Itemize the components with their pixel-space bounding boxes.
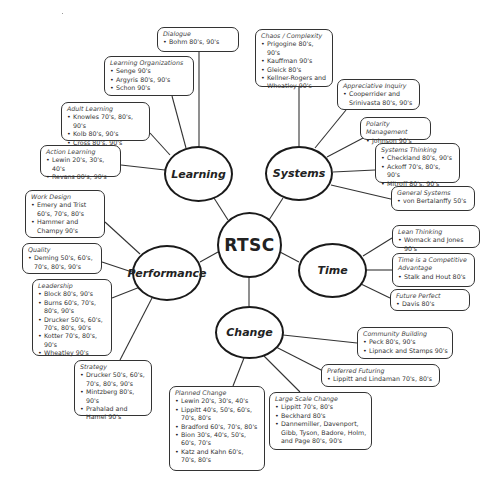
list-item: Revans 80's, 90's bbox=[46, 173, 116, 181]
theme-time[interactable]: Time bbox=[298, 243, 367, 298]
list-item: Argyris 80's, 90's bbox=[110, 76, 189, 84]
list-item: Bion 30's, 40's, 50's, 60's, 70's bbox=[175, 431, 260, 448]
box-large-scale-change[interactable]: Large Scale Change Lippitt 70's, 80's Be… bbox=[269, 392, 372, 450]
box-title: Quality bbox=[28, 246, 97, 254]
box-title: Strategy bbox=[80, 363, 147, 371]
list-item: Block 80's, 90's bbox=[38, 290, 107, 298]
box-leadership[interactable]: Leadership Block 80's, 90's Burns 60's, … bbox=[32, 279, 112, 356]
list-item: Prigogine 80's, 90's bbox=[261, 40, 328, 57]
list-item: Wheatley 90's bbox=[38, 349, 107, 357]
list-item: Checkland 80's, 90's bbox=[381, 154, 455, 162]
box-title: Large Scale Change bbox=[275, 395, 367, 403]
box-title: Community Building bbox=[363, 330, 448, 338]
list-item: Stalk and Hout 80's bbox=[398, 273, 470, 281]
theme-learning[interactable]: Learning bbox=[164, 146, 233, 202]
list-item: Burns 60's, 70's, 80's, 90's bbox=[38, 299, 107, 316]
box-title: Chaos / Complexity bbox=[261, 32, 328, 40]
list-item: Kauffman 90's bbox=[261, 57, 328, 65]
box-preferred-futuring[interactable]: Preferred Futuring Lippitt and Lindaman … bbox=[321, 364, 440, 387]
list-item: Lewin 20's, 30's, 40's bbox=[46, 156, 116, 173]
box-title: Future Perfect bbox=[396, 292, 465, 300]
box-appreciative-inquiry[interactable]: Appreciative Inquiry Cooperrider and Sri… bbox=[337, 79, 420, 110]
list-item: Bohm 80's, 90's bbox=[163, 38, 234, 46]
theme-label: Change bbox=[226, 326, 273, 339]
list-item: Peck 80's, 90's bbox=[363, 338, 448, 346]
list-item: Drucker 50's, 60's, 70's, 80's, 90's bbox=[80, 371, 147, 388]
box-title: Action Learning bbox=[46, 148, 116, 156]
box-strategy[interactable]: Strategy Drucker 50's, 60's, 70's, 80's,… bbox=[74, 360, 152, 416]
theme-label: Learning bbox=[171, 168, 226, 181]
list-item: Lewin 20's, 30's, 40's bbox=[175, 397, 260, 405]
list-item: Kellner-Rogers and Wheatley 90's bbox=[261, 74, 328, 91]
list-item: Dannemiller, Davenport, Gibb, Tyson, Bad… bbox=[275, 420, 367, 445]
box-systems-thinking[interactable]: Systems Thinking Checkland 80's, 90's Ac… bbox=[375, 143, 460, 183]
box-polarity-management[interactable]: Polarity Management Johnson 90's bbox=[360, 117, 431, 140]
box-title: Preferred Futuring bbox=[327, 367, 435, 375]
box-quality[interactable]: Quality Deming 50's, 60's, 70's, 80's, 9… bbox=[22, 243, 102, 274]
box-general-systems[interactable]: General Systems von Bertalanffy 50's bbox=[391, 186, 475, 211]
list-item: Prahalad and Hamel 90's bbox=[80, 405, 147, 422]
list-item: Deming 50's, 60's, 70's, 80's, 90's bbox=[28, 254, 97, 271]
box-title: Adult Learning bbox=[67, 105, 145, 113]
list-item: Drucker 50's, 60's, 70's, 80's, 90's bbox=[38, 316, 107, 333]
box-title: Leadership bbox=[38, 282, 107, 290]
box-work-design[interactable]: Work Design Emery and Trist 60's, 70's, … bbox=[25, 190, 105, 238]
box-dialogue[interactable]: Dialogue Bohm 80's, 90's bbox=[157, 27, 239, 52]
box-title: Appreciative Inquiry bbox=[343, 82, 415, 90]
box-learning-organizations[interactable]: Learning Organizations Senge 90's Argyri… bbox=[104, 56, 194, 96]
theme-change[interactable]: Change bbox=[215, 306, 284, 359]
theme-label: Systems bbox=[273, 167, 325, 180]
box-title: Polarity Management bbox=[366, 120, 426, 137]
box-title: Learning Organizations bbox=[110, 59, 189, 67]
box-community-building[interactable]: Community Building Peck 80's, 90's Lipna… bbox=[357, 327, 453, 359]
list-item: Schon 90's bbox=[110, 84, 189, 92]
box-title: Time is a Competitive Advantage bbox=[398, 256, 470, 273]
stray-mark bbox=[62, 13, 63, 14]
box-title: Systems Thinking bbox=[381, 146, 455, 154]
box-title: Lean Thinking bbox=[398, 228, 475, 236]
list-item: Lipnack and Stamps 90's bbox=[363, 347, 448, 355]
list-item: Katz and Kahn 60's, 70's, 80's bbox=[175, 448, 260, 465]
list-item: Senge 90's bbox=[110, 67, 189, 75]
box-lean-thinking[interactable]: Lean Thinking Womack and Jones 90's bbox=[392, 225, 480, 248]
list-item: Gleick 80's bbox=[261, 66, 328, 74]
theme-systems[interactable]: Systems bbox=[265, 146, 333, 201]
box-action-learning[interactable]: Action Learning Lewin 20's, 30's, 40's R… bbox=[40, 145, 121, 177]
theme-label: Performance bbox=[127, 267, 206, 280]
list-item: Lippitt and Lindaman 70's, 80's bbox=[327, 375, 435, 383]
list-item: Davis 80's bbox=[396, 300, 465, 308]
box-title: Work Design bbox=[31, 193, 100, 201]
box-adult-learning[interactable]: Adult Learning Knowles 70's, 80's, 90's … bbox=[61, 102, 150, 141]
theme-performance[interactable]: Performance bbox=[132, 245, 202, 301]
list-item: Hammer and Champy 90's bbox=[31, 218, 100, 235]
list-item: Kotter 70's, 80's, 90's bbox=[38, 332, 107, 349]
box-title: Planned Change bbox=[175, 389, 260, 397]
box-future-perfect[interactable]: Future Perfect Davis 80's bbox=[390, 289, 470, 311]
hub-rtsc[interactable]: RTSC bbox=[217, 212, 282, 278]
list-item: Mintzberg 80's, 90's bbox=[80, 388, 147, 405]
box-competitive-advantage[interactable]: Time is a Competitive Advantage Stalk an… bbox=[392, 253, 475, 287]
list-item: Bradford 60's, 70's, 80's bbox=[175, 423, 260, 431]
list-item: Womack and Jones 90's bbox=[398, 236, 475, 253]
list-item: Beckhard 80's bbox=[275, 412, 367, 420]
theme-label: Time bbox=[317, 264, 347, 277]
list-item: Knowles 70's, 80's, 90's bbox=[67, 113, 145, 130]
list-item: Kolb 80's, 90's bbox=[67, 130, 145, 138]
hub-label: RTSC bbox=[224, 235, 275, 255]
box-planned-change[interactable]: Planned Change Lewin 20's, 30's, 40's Li… bbox=[169, 386, 265, 471]
box-title: General Systems bbox=[397, 189, 470, 197]
list-item: Lippitt 70's, 80's bbox=[275, 403, 367, 411]
list-item: Emery and Trist 60's, 70's, 80's bbox=[31, 201, 100, 218]
box-chaos-complexity[interactable]: Chaos / Complexity Prigogine 80's, 90's … bbox=[255, 29, 333, 87]
box-title: Dialogue bbox=[163, 30, 234, 38]
list-item: Cooperrider and Srinivasta 80's, 90's bbox=[343, 90, 415, 107]
list-item: von Bertalanffy 50's bbox=[397, 197, 470, 205]
list-item: Ackoff 70's, 80's, 90's bbox=[381, 163, 455, 180]
list-item: Lippitt 40's, 50's, 60's, 70's, 80's bbox=[175, 406, 260, 423]
